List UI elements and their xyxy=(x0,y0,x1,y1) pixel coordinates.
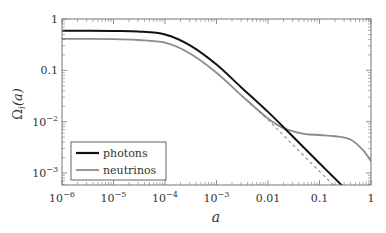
chart-container: 10−610−510−410−30.010.11 10−310−20.11 a … xyxy=(0,0,386,233)
tick-label-x-2: 10−4 xyxy=(152,190,178,205)
y-axis-tick-labels: 10−310−20.11 xyxy=(32,13,58,180)
tick-label-y-3: 1 xyxy=(51,13,58,26)
legend: photons neutrinos xyxy=(71,142,166,180)
tick-label-y-1: 10−2 xyxy=(32,114,58,129)
y-axis-label-main: Ω xyxy=(10,109,25,120)
tick-label-x-4: 0.01 xyxy=(256,192,281,205)
svg-text:Ωi(a): Ωi(a) xyxy=(10,88,27,120)
legend-label-neutrinos: neutrinos xyxy=(103,164,157,177)
x-axis-tick-labels: 10−610−510−410−30.010.11 xyxy=(49,190,374,205)
x-axis-label: a xyxy=(212,209,220,225)
tick-label-x-3: 10−3 xyxy=(204,190,230,205)
tick-label-x-6: 1 xyxy=(368,192,375,205)
tick-label-y-2: 0.1 xyxy=(41,64,59,77)
tick-label-y-0: 10−3 xyxy=(32,165,58,180)
tick-label-x-0: 10−6 xyxy=(49,190,75,205)
plot-svg: 10−610−510−410−30.010.11 10−310−20.11 a … xyxy=(0,0,386,233)
tick-label-x-5: 0.1 xyxy=(311,192,329,205)
y-axis-label: Ωi(a) xyxy=(10,88,27,120)
tick-label-x-1: 10−5 xyxy=(101,190,127,205)
legend-label-photons: photons xyxy=(103,147,148,160)
y-axis-label-arg: (a) xyxy=(10,88,25,106)
